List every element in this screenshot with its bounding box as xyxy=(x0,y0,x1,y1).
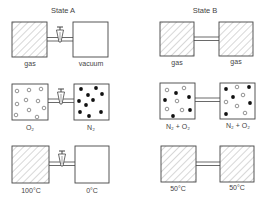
row2-state-b xyxy=(160,83,255,119)
row2-state-a xyxy=(12,84,109,120)
row2-a-left-label: O₂ xyxy=(14,124,46,131)
gas-container xyxy=(12,22,47,57)
gas-container-right xyxy=(219,22,253,56)
vacuum-container xyxy=(73,22,108,57)
state-b-title: State B xyxy=(190,6,220,15)
row1-state-a xyxy=(12,22,108,57)
diagram-canvas xyxy=(0,0,267,204)
row1-b-left-label: gas xyxy=(161,59,193,66)
hot-container xyxy=(12,146,49,183)
row2-b-right-label: N₂ + O₂ xyxy=(217,122,259,129)
row3-b-right-label: 50°C xyxy=(220,184,254,191)
valve-icon xyxy=(58,89,65,104)
row3-b-left-label: 50°C xyxy=(161,185,195,192)
row3-a-right-label: 0°C xyxy=(75,187,109,194)
row2-b-left-label: N₂ + O₂ xyxy=(157,123,199,130)
cold-container xyxy=(75,146,109,183)
equal-temp-container-right xyxy=(220,146,254,182)
row1-a-right-label: vacuum xyxy=(72,60,110,67)
gas-container-left xyxy=(160,22,194,56)
row3-state-a xyxy=(12,146,109,183)
valve-icon xyxy=(57,27,64,42)
row1-state-b xyxy=(160,22,253,56)
row1-a-left-label: gas xyxy=(14,60,46,67)
row2-a-right-label: N₂ xyxy=(75,124,107,131)
row3-a-left-label: 100°C xyxy=(12,187,50,194)
equal-temp-container-left xyxy=(161,146,196,182)
valve-icon xyxy=(59,151,66,166)
state-a-title: State A xyxy=(48,6,78,15)
row1-b-right-label: gas xyxy=(220,58,252,65)
row3-state-b xyxy=(161,146,254,182)
